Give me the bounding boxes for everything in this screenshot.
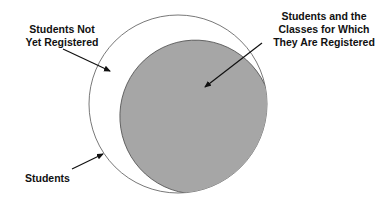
arrow-students	[72, 154, 103, 169]
label-line: Students and the	[270, 10, 378, 23]
label-students: Students	[25, 172, 70, 185]
label-line: Yet Registered	[14, 36, 110, 49]
label-line: Classes for Which	[270, 23, 378, 36]
label-line: They Are Registered	[270, 36, 378, 49]
label-students-not-registered: Students Not Yet Registered	[14, 23, 110, 49]
label-line: Students Not	[14, 23, 110, 36]
label-students-and-classes: Students and the Classes for Which They …	[270, 10, 378, 49]
